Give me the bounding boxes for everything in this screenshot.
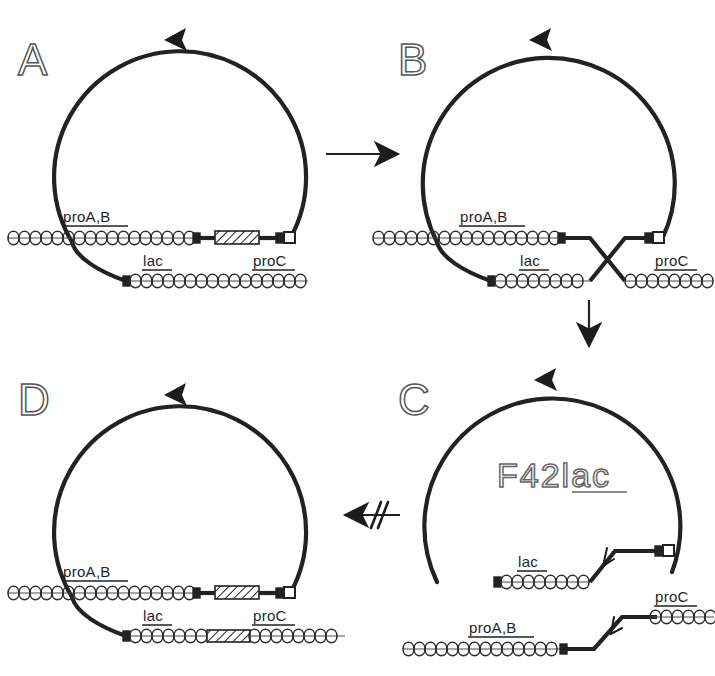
- episome-terminus-B: [653, 232, 664, 243]
- strand-node-B2: [645, 233, 652, 243]
- hatched-segment-A-top: [215, 231, 259, 244]
- episome-terminus-D: [284, 587, 295, 598]
- panel-letter-C: C: [398, 375, 432, 424]
- recombination-diagram: A: [0, 0, 715, 676]
- svg-text:lac: lac: [520, 252, 540, 269]
- strand-node-C1: [494, 577, 501, 587]
- strand-node-B3: [488, 276, 495, 286]
- svg-text:proC: proC: [655, 252, 689, 269]
- panel-letter-D: D: [18, 375, 52, 424]
- svg-text:lac: lac: [518, 553, 538, 570]
- hatched-segment-D-top: [215, 586, 259, 599]
- svg-text:proA,B: proA,B: [63, 208, 111, 225]
- strand-node-C2: [655, 546, 662, 556]
- svg-text:proA,B: proA,B: [469, 619, 517, 636]
- episome-terminus-C: [663, 545, 674, 556]
- strand-node-A2: [276, 233, 283, 243]
- svg-text:proC: proC: [655, 588, 689, 605]
- strand-node-A3: [123, 276, 130, 286]
- svg-text:proA,B: proA,B: [460, 208, 508, 225]
- hatched-segment-D-bottom: [207, 630, 250, 642]
- strand-node-C3: [560, 644, 567, 654]
- panel-letter-B: B: [398, 35, 429, 84]
- episome-label-text: F42lac: [497, 456, 611, 494]
- strand-node-B1: [558, 233, 565, 243]
- episome-terminus-A: [284, 232, 295, 243]
- episome-label-C: F42lac: [497, 456, 627, 494]
- panel-letter-A: A: [18, 35, 49, 84]
- svg-text:proA,B: proA,B: [63, 563, 111, 580]
- svg-text:proC: proC: [253, 607, 287, 624]
- svg-text:lac: lac: [143, 252, 163, 269]
- svg-text:proC: proC: [253, 252, 287, 269]
- figure-root: A: [0, 0, 715, 676]
- strand-node-D2: [276, 588, 283, 598]
- svg-text:lac: lac: [143, 607, 163, 624]
- strand-node-D3: [123, 631, 130, 641]
